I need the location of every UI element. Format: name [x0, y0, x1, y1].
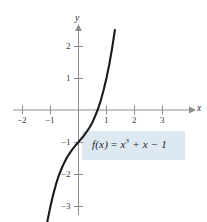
x-tick-label-2: 2 — [132, 116, 137, 125]
function-graph-figure: −2 −1 1 2 3 2 1 −1 −2 −3 x y f(x) = x3 +… — [0, 0, 207, 222]
plot-area — [0, 0, 207, 222]
x-tick-label-neg2: −2 — [17, 116, 27, 125]
function-expression-label: f(x) = x3 + x − 1 — [92, 138, 167, 150]
y-tick-label-1: 1 — [66, 74, 71, 83]
x-tick-label-3: 3 — [160, 116, 165, 125]
function-label-equals: = — [108, 138, 120, 150]
y-axis-label: y — [75, 14, 79, 24]
y-tick-label-neg3: −3 — [61, 202, 71, 211]
x-axis-label: x — [197, 104, 201, 114]
function-label-minus-one: − 1 — [148, 138, 167, 150]
x-tick-label-neg1: −1 — [45, 116, 55, 125]
x-tick-label-1: 1 — [104, 116, 109, 125]
function-label-fx: f(x) — [92, 138, 108, 150]
y-tick-label-neg2: −2 — [61, 170, 71, 179]
y-tick-label-2: 2 — [66, 42, 71, 51]
y-tick-label-neg1: −1 — [61, 138, 71, 147]
function-label-plus-x: + x — [129, 138, 148, 150]
y-axis-arrow-icon — [75, 24, 82, 31]
x-axis-arrow-icon — [189, 107, 196, 114]
